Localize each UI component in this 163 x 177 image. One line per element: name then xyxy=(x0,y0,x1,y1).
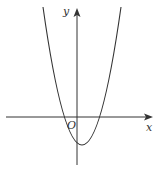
x-axis-label: x xyxy=(146,121,153,134)
y-axis-label: y xyxy=(62,5,70,18)
origin-label: O xyxy=(67,119,76,132)
parabola-diagram: y x O xyxy=(0,0,163,177)
parabola-curve xyxy=(43,7,121,145)
